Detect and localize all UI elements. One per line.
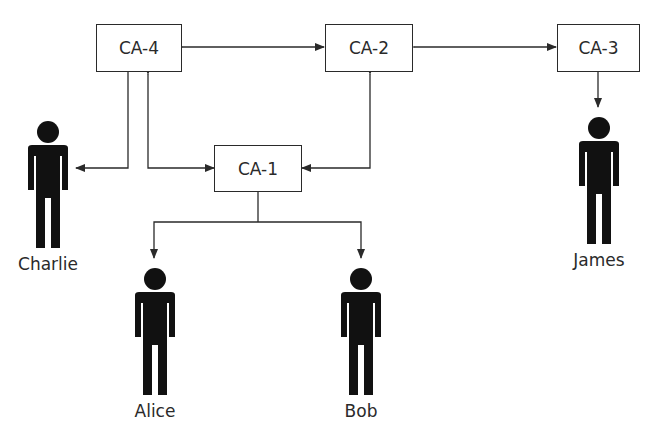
edge-ca4-ca1 <box>148 74 214 168</box>
ca4-node: CA-4 <box>96 24 182 72</box>
edge-ca2-ca1 <box>302 74 370 168</box>
ca1-node: CA-1 <box>214 145 302 192</box>
edge-ca4-charlie <box>76 72 128 168</box>
person-icon <box>573 116 625 246</box>
ca3-label: CA-3 <box>578 38 618 58</box>
ca2-node: CA-2 <box>325 24 413 72</box>
ca4-label: CA-4 <box>119 38 159 58</box>
person-icon <box>22 120 74 250</box>
edge-ca1-alice <box>154 222 258 258</box>
ca3-node: CA-3 <box>557 24 640 72</box>
bob-label: Bob <box>311 401 411 421</box>
alice-label: Alice <box>105 401 205 421</box>
charlie-label: Charlie <box>0 254 98 274</box>
ca1-label: CA-1 <box>238 159 278 179</box>
person-icon <box>129 267 181 397</box>
edge-ca1-bob <box>258 222 361 258</box>
james-label: James <box>549 250 649 270</box>
ca2-label: CA-2 <box>349 38 389 58</box>
person-icon <box>335 267 387 397</box>
